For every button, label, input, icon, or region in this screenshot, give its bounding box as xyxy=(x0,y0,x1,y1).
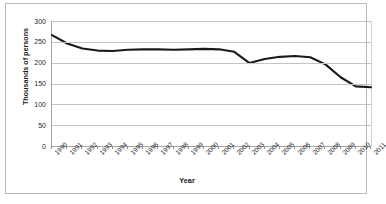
x-tick-mark xyxy=(203,146,204,149)
plot-right-border xyxy=(371,21,372,146)
y-tick-label: 100 xyxy=(22,101,46,108)
y-tick-label: 50 xyxy=(22,122,46,129)
x-tick-mark xyxy=(218,146,219,149)
y-tick-label: 200 xyxy=(22,59,46,66)
x-tick-mark xyxy=(233,146,234,149)
x-tick-mark xyxy=(97,146,98,149)
x-tick-label: 2011 xyxy=(372,141,386,156)
gridline xyxy=(52,104,371,105)
x-tick-mark xyxy=(370,146,371,149)
y-tick-label: 250 xyxy=(22,38,46,45)
gridline xyxy=(52,21,371,22)
x-tick-mark xyxy=(249,146,250,149)
x-axis-title: Year xyxy=(0,176,374,185)
plot-area xyxy=(51,21,371,147)
x-tick-mark xyxy=(81,146,82,149)
chart-frame: Thousands of persons 050100150200250300 … xyxy=(5,3,367,194)
x-tick-mark xyxy=(173,146,174,149)
x-tick-mark xyxy=(112,146,113,149)
y-axis-tick-labels: 050100150200250300 xyxy=(22,4,46,204)
x-tick-mark xyxy=(51,146,52,149)
x-tick-mark xyxy=(324,146,325,149)
x-tick-mark xyxy=(279,146,280,149)
x-tick-mark xyxy=(66,146,67,149)
y-tick-label: 300 xyxy=(22,18,46,25)
x-tick-mark xyxy=(157,146,158,149)
x-tick-mark xyxy=(294,146,295,149)
gridline xyxy=(52,42,371,43)
gridline xyxy=(52,125,371,126)
gridline xyxy=(52,84,371,85)
x-tick-mark xyxy=(142,146,143,149)
gridline xyxy=(52,63,371,64)
x-tick-mark xyxy=(264,146,265,149)
x-tick-mark xyxy=(127,146,128,149)
x-tick-mark xyxy=(340,146,341,149)
y-tick-label: 0 xyxy=(22,143,46,150)
x-tick-mark xyxy=(355,146,356,149)
x-tick-mark xyxy=(188,146,189,149)
y-tick-label: 150 xyxy=(22,80,46,87)
x-tick-mark xyxy=(309,146,310,149)
